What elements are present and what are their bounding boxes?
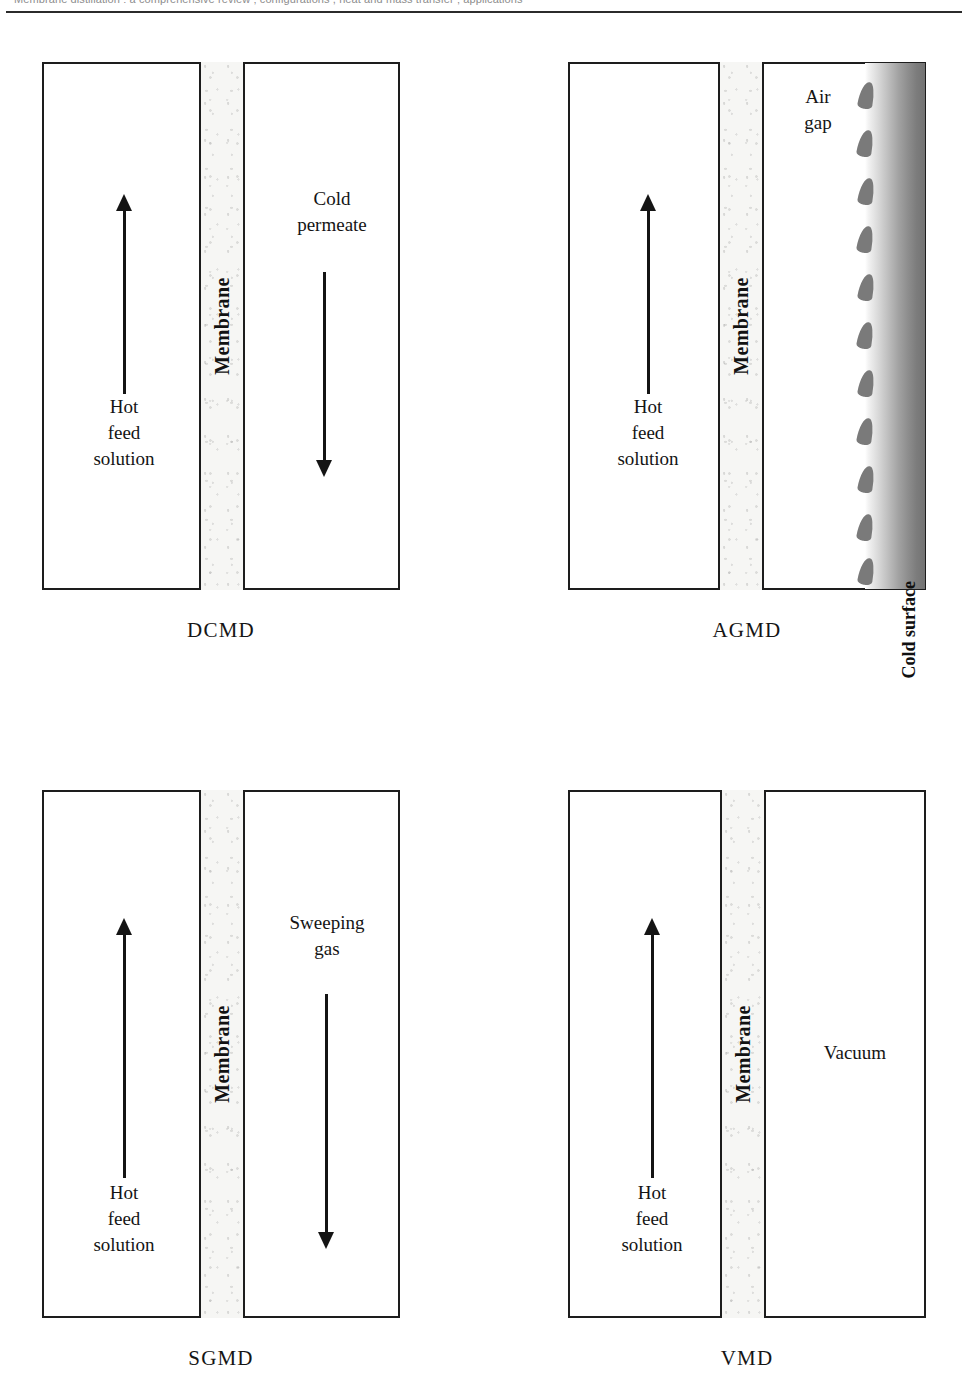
- vmd-caption: VMD: [568, 1346, 926, 1371]
- agmd-caption: AGMD: [568, 618, 926, 643]
- running-head-text: Membrane distillation : a comprehensive …: [14, 0, 954, 5]
- agmd-cold-surface: Cold surface: [865, 63, 925, 589]
- arrow-shaft: [325, 994, 328, 1237]
- dcmd-permeate-label: Cold permeate: [272, 186, 392, 238]
- dcmd-cell-box: Membrane Hot feed solution Cold permeate: [42, 62, 400, 590]
- sgmd-membrane-band: Membrane: [199, 790, 245, 1318]
- sgmd-cell-box: Membrane Hot feed solution Sweeping gas: [42, 790, 400, 1318]
- agmd-cell-box: Membrane Hot feed solution Air gap Cold …: [568, 62, 926, 590]
- agmd-membrane-band: Membrane: [718, 62, 764, 590]
- sgmd-sweeping-gas-label: Sweeping gas: [257, 910, 397, 962]
- sgmd-feed-label: Hot feed solution: [64, 1180, 184, 1258]
- sgmd-permeate-arrow-down: [316, 994, 336, 1249]
- agmd-feed-label: Hot feed solution: [588, 394, 708, 472]
- sgmd-feed-arrow-up: [114, 918, 134, 1178]
- arrowhead-icon: [318, 1232, 334, 1249]
- agmd-air-gap-label: Air gap: [780, 84, 856, 136]
- agmd-membrane-label: Membrane: [730, 277, 753, 375]
- vmd-membrane-label: Membrane: [732, 1005, 755, 1103]
- dcmd-feed-arrow-up: [114, 194, 134, 394]
- vmd-feed-label: Hot feed solution: [592, 1180, 712, 1258]
- arrowhead-icon: [316, 460, 332, 477]
- vmd-membrane-band: Membrane: [720, 790, 766, 1318]
- vmd-feed-arrow-up: [642, 918, 662, 1178]
- arrow-shaft: [647, 206, 650, 394]
- agmd-feed-arrow-up: [638, 194, 658, 394]
- dcmd-permeate-arrow-down: [314, 272, 334, 477]
- dcmd-membrane-band: Membrane: [199, 62, 245, 590]
- vmd-cell-box: Membrane Hot feed solution Vacuum: [568, 790, 926, 1318]
- dcmd-feed-label: Hot feed solution: [64, 394, 184, 472]
- sgmd-membrane-label: Membrane: [211, 1005, 234, 1103]
- header-rule: [6, 11, 962, 13]
- sgmd-caption: SGMD: [42, 1346, 400, 1371]
- vmd-vacuum-label: Vacuum: [790, 1040, 920, 1066]
- arrow-shaft: [323, 272, 326, 465]
- arrow-shaft: [651, 930, 654, 1178]
- dcmd-caption: DCMD: [42, 618, 400, 643]
- arrow-shaft: [123, 206, 126, 394]
- dcmd-membrane-label: Membrane: [211, 277, 234, 375]
- arrow-shaft: [123, 930, 126, 1178]
